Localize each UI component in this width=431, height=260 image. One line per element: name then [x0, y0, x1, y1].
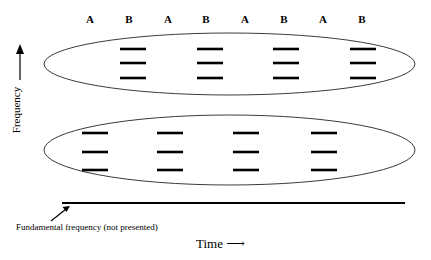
column-label-0: A	[82, 14, 98, 25]
column-label-6: A	[315, 14, 331, 25]
harmonic-group-upper-2	[273, 49, 299, 78]
harmonic-dashes-layer	[82, 49, 376, 170]
time-axis-label: Time ⟶	[196, 236, 245, 252]
column-label-5: B	[276, 14, 292, 25]
column-label-1: B	[121, 14, 137, 25]
harmonic-group-lower-2	[233, 133, 259, 170]
harmonic-group-upper-3	[350, 49, 376, 78]
figure-canvas	[0, 0, 431, 260]
harmonic-group-lower-1	[157, 133, 183, 170]
fundamental-pointer-arrow	[51, 206, 70, 221]
harmonic-group-upper-1	[197, 49, 223, 78]
right-arrow-icon: ⟶	[223, 236, 245, 251]
diagram-svg	[0, 0, 431, 260]
harmonic-group-lower-0	[82, 133, 108, 170]
column-label-7: B	[354, 14, 370, 25]
harmonic-group-upper-0	[120, 49, 146, 78]
harmonic-group-lower-3	[311, 133, 337, 170]
column-label-2: A	[160, 14, 176, 25]
lower-harmonic-band-ellipse	[44, 115, 415, 185]
time-axis-label-text: Time	[196, 236, 223, 251]
frequency-axis-label: Frequency	[10, 70, 22, 150]
column-label-4: A	[237, 14, 253, 25]
fundamental-frequency-note: Fundamental frequency (not presented)	[16, 222, 158, 232]
column-label-3: B	[198, 14, 214, 25]
